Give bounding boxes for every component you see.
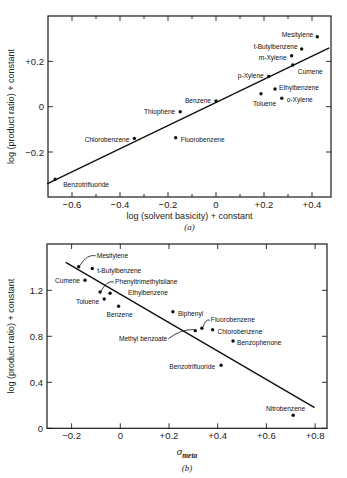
point-marker <box>179 110 182 113</box>
y-axis-label: log (product ratio) + constant <box>6 49 16 164</box>
data-point: Biphenyl <box>171 310 204 318</box>
point-marker <box>103 297 106 300</box>
point-label: o-Xylene <box>287 96 313 104</box>
x-tick-label: +0.2 <box>160 430 179 441</box>
chart-b-sigma-meta: −0.20+0.2+0.4+0.6+0.81.20.80.40log (prod… <box>6 244 327 473</box>
point-marker <box>108 292 111 295</box>
point-marker <box>259 92 262 95</box>
x-tick-label: −0.2 <box>62 430 81 441</box>
point-label: Chlorobenzene <box>85 136 130 143</box>
point-label: Biphenyl <box>178 310 204 318</box>
x-tick-label: −0.6 <box>63 199 82 210</box>
x-tick-label: +0.4 <box>208 430 227 441</box>
label-leader-line <box>80 255 96 265</box>
point-marker <box>290 54 293 57</box>
point-label: Thiophene <box>144 108 175 116</box>
data-point: Chlorobenzene <box>85 136 136 143</box>
point-label: Benzotrifluoride <box>169 363 215 370</box>
plot-frame <box>47 244 327 428</box>
point-marker <box>291 414 294 417</box>
y-tick-label: 0.8 <box>30 331 43 342</box>
point-marker <box>219 364 222 367</box>
point-label: Mesitylene <box>97 252 129 260</box>
point-marker <box>316 35 319 38</box>
point-marker <box>211 328 214 331</box>
point-label: Chlorobenzene <box>218 328 263 335</box>
point-label: Cumene <box>55 277 80 284</box>
x-axis-label: log (solvent basicity) + constant <box>127 211 253 221</box>
point-marker <box>117 305 120 308</box>
data-point: Benzene <box>107 305 133 319</box>
point-label: Cumene <box>298 68 323 75</box>
point-label: Methyl benzoate <box>119 335 168 343</box>
point-marker <box>171 310 174 313</box>
point-label: Ethylbenzene <box>279 84 319 92</box>
point-label: Toluene <box>76 298 99 305</box>
regression-line <box>47 48 329 184</box>
point-label: t-Butylbenzene <box>254 43 298 51</box>
y-tick-label: +0.2 <box>25 56 44 67</box>
figure-caption: (a) <box>184 222 195 232</box>
point-label: Phenyltrimethylsilane <box>115 278 178 286</box>
point-marker <box>214 99 217 102</box>
data-point: Nitrobenzene <box>266 405 306 417</box>
point-label: m-Xylene <box>259 54 287 62</box>
x-tick-label: 0 <box>118 430 123 441</box>
point-marker <box>174 136 177 139</box>
point-marker <box>291 63 294 66</box>
figure-caption: (b) <box>182 463 193 473</box>
point-label: Benzophenone <box>237 339 282 347</box>
x-tick-label: 0 <box>213 199 218 210</box>
data-point: t-Butylbenzene <box>91 267 142 276</box>
point-label: Fluorobenzene <box>211 316 255 323</box>
point-marker <box>300 47 303 50</box>
y-tick-label: 0 <box>39 101 44 112</box>
data-point: Benzotrifluoride <box>169 363 223 370</box>
point-label: Ethylbenzene <box>128 289 168 297</box>
point-label: p-Xylene <box>238 72 264 80</box>
data-point: Mesitylene <box>77 252 129 269</box>
label-leader-line <box>203 320 210 327</box>
point-label: Fluorobenzene <box>181 136 225 143</box>
x-tick-label: +0.4 <box>303 199 322 210</box>
data-point: Benzophenone <box>231 339 281 347</box>
x-tick-label: +0.8 <box>306 430 325 441</box>
data-point: Toluene <box>76 297 106 305</box>
x-tick-label: +0.2 <box>255 199 274 210</box>
label-leader-line <box>168 330 194 339</box>
point-marker <box>83 279 86 282</box>
figure: −0.6−0.4−0.20+0.2+0.4+0.20−0.2log (produ… <box>0 0 347 478</box>
point-marker <box>231 339 234 342</box>
y-tick-label: 1.2 <box>30 285 43 296</box>
data-point: o-Xylene <box>280 96 313 104</box>
point-label: t-Butylbenzene <box>97 267 141 275</box>
y-tick-label: 0 <box>38 423 43 434</box>
y-axis-label: log (product ratio) + constant <box>6 278 16 393</box>
point-marker <box>267 75 270 78</box>
x-tick-label: −0.2 <box>159 199 178 210</box>
x-axis-label: σmeta <box>177 445 198 460</box>
point-marker <box>280 97 283 100</box>
point-label: Nitrobenzene <box>266 405 306 412</box>
point-marker <box>273 87 276 90</box>
data-point: Mesitylene <box>282 31 319 39</box>
point-marker <box>54 177 57 180</box>
point-marker <box>91 267 94 270</box>
data-point: Fluorobenzene <box>174 136 225 143</box>
x-tick-label: −0.4 <box>111 199 130 210</box>
point-marker <box>133 137 136 140</box>
point-label: Mesitylene <box>282 31 314 39</box>
data-point: Benzotrifluoride <box>54 177 110 188</box>
data-point: Chlorobenzene <box>211 328 263 335</box>
chart-a-solvent-basicity: −0.6−0.4−0.20+0.2+0.4+0.20−0.2log (produ… <box>6 16 331 232</box>
point-label: Benzene <box>107 311 133 318</box>
y-tick-label: 0.4 <box>30 377 43 388</box>
data-point: t-Butylbenzene <box>254 43 304 51</box>
data-point: Methyl benzoate <box>119 329 197 343</box>
x-tick-label: +0.6 <box>257 430 276 441</box>
data-point: Toluene <box>253 92 276 107</box>
point-label: Benzotrifluoride <box>63 181 109 188</box>
data-point: Ethylbenzene <box>273 84 319 92</box>
data-point: m-Xylene <box>259 54 294 62</box>
data-point: Thiophene <box>144 108 182 116</box>
